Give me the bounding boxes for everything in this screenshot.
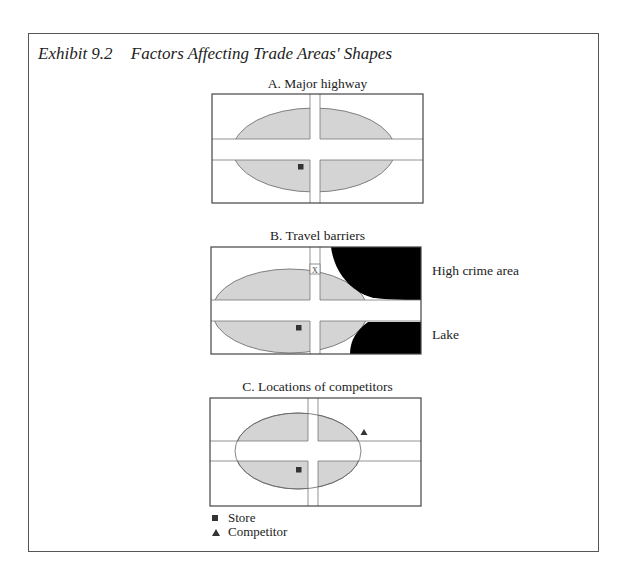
- panel-c-map: [205, 394, 430, 510]
- store-marker: [298, 164, 304, 170]
- store-marker: [296, 325, 302, 331]
- competitor-marker: [361, 429, 368, 435]
- square-icon: [212, 515, 226, 521]
- trade-area-diagrams: X: [0, 0, 630, 579]
- vertical-road: [308, 394, 318, 510]
- triangle-icon: [212, 529, 226, 536]
- legend: Store Competitor: [212, 511, 287, 539]
- road-block-marker: X: [312, 266, 318, 275]
- legend-label: Competitor: [228, 524, 287, 540]
- legend-item-competitor: Competitor: [212, 525, 287, 539]
- vertical-road: [310, 243, 320, 358]
- legend-item-store: Store: [212, 511, 287, 525]
- panel-a-map: [205, 90, 430, 210]
- vertical-road: [310, 90, 320, 210]
- panel-b-map: [205, 243, 430, 358]
- store-marker: [296, 467, 302, 473]
